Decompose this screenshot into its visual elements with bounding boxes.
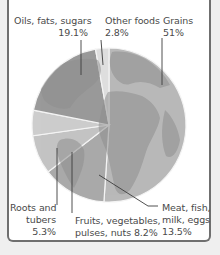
label-oils: Oils, fats, sugars19.1%	[14, 15, 88, 39]
label-roots: Roots andtubers5.3%	[10, 202, 56, 238]
label-meat: Meat, fish,milk, eggs13.5%	[162, 202, 211, 238]
label-fruits: Fruits, vegetables,pulses, nuts 8.2%	[75, 215, 161, 239]
label-grains: Grains51%	[163, 15, 193, 39]
label-other-foods: Other foods2.8%	[105, 15, 160, 39]
